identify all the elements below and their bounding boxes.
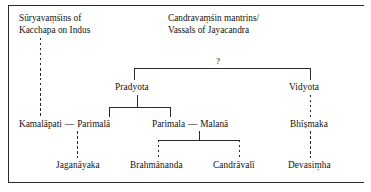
uncertain-descent-marker: ? [216, 57, 220, 66]
sibling-bar-pradyota-vidyota [134, 68, 311, 69]
connector-parimala-malana-stem [199, 131, 200, 140]
couple-kamalapati-parimala: Kamalāpati—Parimalā [19, 119, 110, 129]
heading-candravamsins-line1: Candravaṃśin mantrins/ [168, 13, 259, 25]
connector-vidyota-to-bhismaka [310, 95, 311, 117]
node-parimala-female: Parimalā [77, 119, 110, 129]
connector-to-parimala-male [170, 107, 171, 117]
marriage-dash-right: — [185, 119, 200, 129]
connector-bar-to-pradyota [134, 68, 135, 80]
connector-to-parimala-female [109, 107, 110, 117]
marriage-dash-left: — [62, 119, 77, 129]
connector-bhismaka-to-devasimha [310, 131, 311, 158]
sibling-bar-pradyota-children [109, 107, 171, 108]
heading-suryavamsins-line1: Sūryavaṃśins of [19, 13, 90, 25]
sibling-bar-parimala-children [158, 140, 240, 141]
connector-kamalapati-to-jaganayaka [77, 131, 78, 158]
node-kamalapati: Kamalāpati [19, 119, 62, 129]
node-candravali: Candrāvalī [213, 160, 255, 171]
node-parimala-male: Parimala [152, 119, 185, 129]
node-devasimha: Devasiṃha [288, 160, 331, 171]
node-malana: Malanā [200, 119, 228, 129]
node-brahmananda: Brahmānanda [130, 160, 183, 171]
connector-to-candravali [239, 140, 240, 158]
genealogy-chart: Sūryavaṃśins of Kacchapa on Indus Candra… [0, 0, 371, 192]
connector-bar-to-vidyota [310, 68, 311, 80]
heading-candravamsins-line2: Vassals of Jayacandra [168, 25, 259, 37]
couple-parimala-malana: Parimala—Malanā [152, 119, 228, 129]
frame-left-border [8, 5, 9, 183]
heading-suryavamsins-line2: Kacchapa on Indus [19, 25, 90, 37]
connector-to-brahmananda [158, 140, 159, 158]
heading-candravamsins: Candravaṃśin mantrins/ Vassals of Jayaca… [168, 13, 259, 36]
frame-bottom-rule [8, 182, 364, 183]
frame-top-rule [8, 5, 364, 6]
connector-pradyota-stem [137, 95, 138, 107]
node-pradyota: Pradyota [115, 82, 149, 93]
node-jaganayaka: Jaganāyaka [56, 160, 100, 171]
heading-suryavamsins: Sūryavaṃśins of Kacchapa on Indus [19, 13, 90, 36]
connector-suryavamsins-to-kamalapati [40, 38, 41, 116]
node-bhismaka: Bhīṣmaka [290, 119, 328, 130]
node-vidyota: Vidyota [289, 82, 319, 93]
